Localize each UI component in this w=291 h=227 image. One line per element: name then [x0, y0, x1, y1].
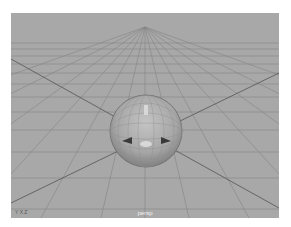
camera-label: persp [11, 210, 279, 216]
3d-viewport[interactable]: Y X Z persp [11, 13, 279, 218]
perspective-grid [11, 13, 279, 218]
sphere-object [110, 95, 182, 167]
